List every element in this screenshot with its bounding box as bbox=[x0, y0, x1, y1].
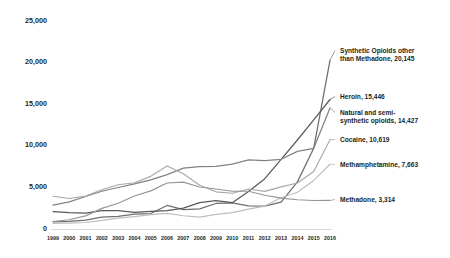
x-tick-label: 1999 bbox=[47, 235, 59, 241]
series-labels: Synthetic Opioids otherthan Methadone, 2… bbox=[340, 47, 418, 204]
x-tick-label: 2010 bbox=[226, 235, 238, 241]
series-label-1: Heroin, 15,446 bbox=[340, 93, 385, 101]
y-axis-tick-labels: 05,00010,00015,00020,00025,000 bbox=[25, 16, 47, 233]
chart-canvas: 05,00010,00015,00020,00025,000 199920002… bbox=[0, 0, 450, 258]
series-label-3: Cocaine, 10,619 bbox=[340, 136, 390, 144]
x-tick-label: 2002 bbox=[96, 235, 108, 241]
x-tick-label: 2013 bbox=[275, 235, 287, 241]
x-tick-label: 2015 bbox=[308, 235, 320, 241]
x-tick-label: 2008 bbox=[194, 235, 206, 241]
x-tick-label: 2000 bbox=[63, 235, 75, 241]
series-label-0: than Methadone, 20,145 bbox=[340, 55, 415, 63]
x-tick-label: 2011 bbox=[243, 235, 255, 241]
series-label-4: Methamphetamine, 7,663 bbox=[340, 161, 418, 169]
leader-line-0 bbox=[330, 51, 335, 61]
series-line-3 bbox=[53, 140, 330, 199]
series-label-0: Synthetic Opioids other bbox=[340, 47, 415, 55]
x-tick-label: 2014 bbox=[291, 235, 303, 241]
series-label-5: Methadone, 3,314 bbox=[340, 196, 395, 204]
x-tick-label: 2006 bbox=[161, 235, 173, 241]
x-tick-label: 2005 bbox=[145, 235, 157, 241]
x-tick-label: 2012 bbox=[259, 235, 271, 241]
x-tick-label: 2007 bbox=[177, 235, 189, 241]
series-line-0 bbox=[53, 60, 330, 222]
series-label-2: synthetic opioids, 14,427 bbox=[340, 117, 418, 125]
series-leader-lines bbox=[330, 51, 335, 201]
y-tick-label: 20,000 bbox=[25, 57, 47, 66]
leader-line-2 bbox=[330, 108, 335, 113]
series-line-2 bbox=[53, 108, 330, 205]
overdose-deaths-line-chart: 05,00010,00015,00020,00025,000 199920002… bbox=[0, 0, 450, 258]
x-tick-label: 2004 bbox=[128, 235, 140, 241]
series-label-2: Natural and semi- bbox=[340, 109, 395, 116]
x-tick-label: 2001 bbox=[80, 235, 92, 241]
x-axis-tick-labels: 1999200020012002200320042005200620072008… bbox=[47, 235, 336, 241]
x-tick-label: 2003 bbox=[112, 235, 124, 241]
y-tick-label: 0 bbox=[43, 224, 47, 233]
series-line-5 bbox=[53, 182, 330, 221]
series-lines bbox=[53, 60, 330, 223]
y-tick-label: 10,000 bbox=[25, 140, 47, 149]
leader-line-1 bbox=[330, 97, 335, 100]
y-tick-label: 25,000 bbox=[25, 16, 47, 25]
x-tick-label: 2016 bbox=[324, 235, 336, 241]
y-tick-label: 5,000 bbox=[29, 182, 47, 191]
x-tick-label: 2009 bbox=[210, 235, 222, 241]
leader-line-5 bbox=[330, 200, 335, 201]
y-tick-label: 15,000 bbox=[25, 99, 47, 108]
